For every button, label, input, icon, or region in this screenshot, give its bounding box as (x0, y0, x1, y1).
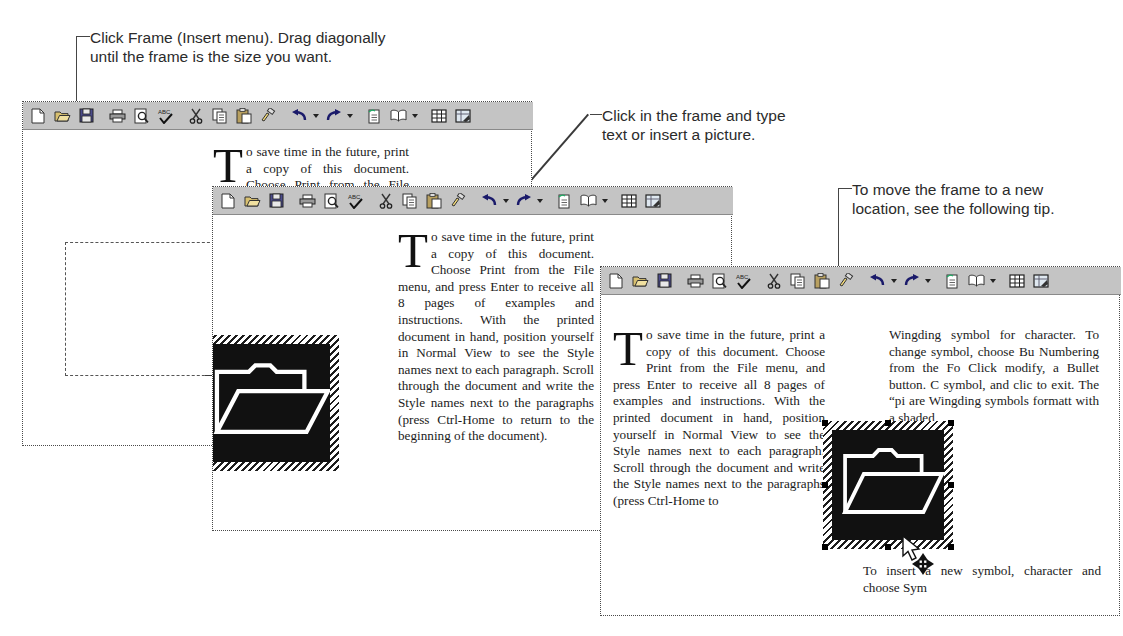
web-toolbar-button[interactable] (965, 270, 987, 291)
document-text-3-right-top: Wingding symbol for character. To change… (889, 327, 1099, 427)
resize-handle-e[interactable] (948, 482, 954, 488)
folder-graphic-frame-3[interactable] (823, 421, 953, 549)
print-button[interactable] (296, 190, 318, 211)
print-button[interactable] (106, 105, 128, 126)
redo-button[interactable] (512, 190, 534, 211)
copy-button[interactable] (209, 105, 231, 126)
format-painter-button[interactable] (447, 190, 469, 211)
format-painter-button[interactable] (257, 105, 279, 126)
chevron-down-icon (537, 199, 543, 203)
format-painter-button[interactable] (835, 270, 857, 291)
undo-dropdown-button[interactable] (888, 270, 899, 291)
redo-dropdown-button[interactable] (922, 270, 933, 291)
frame-being-drawn[interactable] (65, 242, 215, 376)
insert-table-button[interactable] (642, 190, 664, 211)
web-toolbar-button[interactable] (577, 190, 599, 211)
insert-table-button[interactable] (452, 105, 474, 126)
save-document-button[interactable] (75, 105, 97, 126)
spelling-check-button[interactable]: ABC (732, 270, 754, 291)
chevron-down-icon (313, 114, 319, 118)
cut-button[interactable] (375, 190, 397, 211)
toolbar-separator (610, 187, 617, 214)
resize-handle-s[interactable] (885, 544, 891, 550)
folder-graphic-frame-2[interactable] (213, 335, 339, 471)
toolbar-separator (933, 267, 940, 294)
undo-button[interactable] (288, 105, 310, 126)
chevron-down-icon (990, 279, 996, 283)
paste-button[interactable] (811, 270, 833, 291)
redo-button[interactable] (322, 105, 344, 126)
web-toolbar-button[interactable] (387, 105, 409, 126)
resize-handle-se[interactable] (948, 544, 954, 550)
print-preview-button[interactable] (320, 190, 342, 211)
resize-handle-ne[interactable] (948, 420, 954, 426)
save-document-button[interactable] (653, 270, 675, 291)
open-document-button[interactable] (51, 105, 73, 126)
insert-hyperlink-button[interactable] (553, 190, 575, 211)
toolbar-separator (98, 102, 105, 129)
callout-insert-frame-text: Click Frame (Insert menu). Drag diagonal… (90, 28, 385, 66)
folder-icon (213, 344, 330, 462)
new-document-button[interactable] (605, 270, 627, 291)
paste-button[interactable] (233, 105, 255, 126)
web-toolbar-dropdown-button[interactable] (599, 190, 610, 211)
undo-button[interactable] (866, 270, 888, 291)
save-document-button[interactable] (265, 190, 287, 211)
redo-button[interactable] (900, 270, 922, 291)
toolbar-separator (998, 267, 1005, 294)
resize-handle-nw[interactable] (822, 420, 828, 426)
redo-dropdown-button[interactable] (534, 190, 545, 211)
chevron-down-icon (925, 279, 931, 283)
callout-type-text-text: Click in the frame and type text or inse… (602, 106, 786, 144)
document-canvas-3[interactable]: To save time in the future, print a copy… (601, 295, 1119, 615)
print-preview-button[interactable] (130, 105, 152, 126)
new-document-button[interactable] (217, 190, 239, 211)
document-body-3-left: o save time in the future, print a copy … (613, 327, 825, 508)
insert-table-button[interactable] (1030, 270, 1052, 291)
toolbar-separator (367, 187, 374, 214)
chevron-down-icon (891, 279, 897, 283)
toolbar-separator (420, 102, 427, 129)
word-window-3[interactable]: ABC (600, 266, 1120, 616)
toolbar-separator (858, 267, 865, 294)
cut-button[interactable] (185, 105, 207, 126)
spelling-check-button[interactable]: ABC (154, 105, 176, 126)
tables-and-borders-button[interactable] (618, 190, 640, 211)
svg-text:ABC: ABC (158, 109, 171, 115)
tables-and-borders-button[interactable] (428, 105, 450, 126)
paste-button[interactable] (423, 190, 445, 211)
undo-dropdown-button[interactable] (500, 190, 511, 211)
resize-handle-w[interactable] (822, 482, 828, 488)
tables-and-borders-button[interactable] (1006, 270, 1028, 291)
standard-toolbar-2[interactable]: ABC (213, 187, 733, 215)
undo-dropdown-button[interactable] (310, 105, 321, 126)
callout-move-frame-text: To move the frame to a new location, see… (852, 180, 1054, 218)
copy-button[interactable] (399, 190, 421, 211)
redo-dropdown-button[interactable] (344, 105, 355, 126)
toolbar-separator (755, 267, 762, 294)
open-document-button[interactable] (629, 270, 651, 291)
web-toolbar-dropdown-button[interactable] (987, 270, 998, 291)
spelling-check-button[interactable]: ABC (344, 190, 366, 211)
copy-button[interactable] (787, 270, 809, 291)
document-text-2: To save time in the future, print a copy… (398, 229, 594, 445)
resize-handle-n[interactable] (885, 420, 891, 426)
toolbar-separator (470, 187, 477, 214)
insert-hyperlink-button[interactable] (941, 270, 963, 291)
undo-button[interactable] (478, 190, 500, 211)
new-document-button[interactable] (27, 105, 49, 126)
insert-hyperlink-button[interactable] (363, 105, 385, 126)
print-button[interactable] (684, 270, 706, 291)
standard-toolbar-1[interactable]: ABC (23, 102, 533, 130)
web-toolbar-dropdown-button[interactable] (409, 105, 420, 126)
cut-button[interactable] (763, 270, 785, 291)
folder-graphic-3 (832, 430, 944, 540)
standard-toolbar-3[interactable]: ABC (601, 267, 1121, 295)
drop-cap-3: T (613, 329, 643, 368)
folder-icon (832, 430, 944, 540)
resize-handle-sw[interactable] (822, 544, 828, 550)
chevron-down-icon (412, 114, 418, 118)
chevron-down-icon (503, 199, 509, 203)
open-document-button[interactable] (241, 190, 263, 211)
print-preview-button[interactable] (708, 270, 730, 291)
